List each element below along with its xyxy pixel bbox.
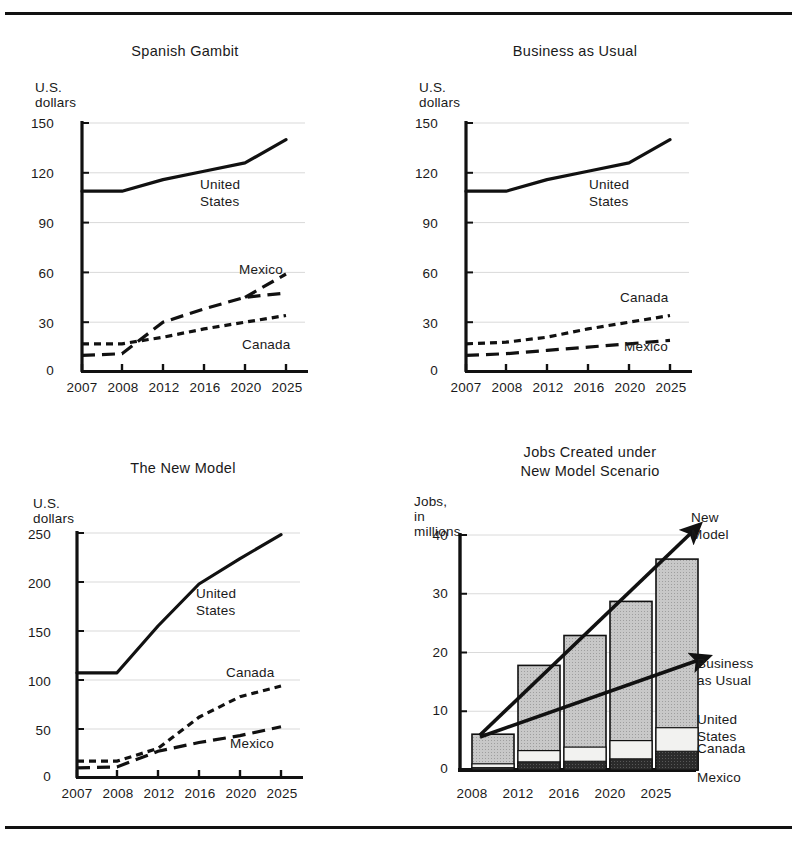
ytick-120-spanish-gambit: 120 xyxy=(8,166,54,181)
bar-group-2008 xyxy=(472,734,514,770)
bar-group-2025 xyxy=(656,559,698,770)
ytick-30-spanish-gambit: 30 xyxy=(8,316,54,331)
xtick-2016-jobs-created: 2016 xyxy=(539,786,589,801)
ytick-100-the-new-model: 100 xyxy=(3,674,51,689)
xtick-2025-business-as-usual: 2025 xyxy=(646,380,696,395)
bar-segment-mexico xyxy=(610,759,652,770)
xtick-2025-spanish-gambit: 2025 xyxy=(262,380,312,395)
series-label-canada-the-new-model: Canada xyxy=(226,664,275,681)
chart-title-the-new-model: The New Model xyxy=(58,459,308,478)
ytick-60-business-as-usual: 60 xyxy=(392,266,438,281)
chart-title-spanish-gambit: Spanish Gambit xyxy=(60,42,310,61)
bar-segment-mexico xyxy=(564,761,606,770)
y-axis-caption-business-as-usual: U.S. dollars xyxy=(419,80,460,110)
xtick-2025-the-new-model: 2025 xyxy=(257,786,307,801)
series-label-united-states-business-as-usual: United States xyxy=(589,176,629,210)
ytick-60-spanish-gambit: 60 xyxy=(8,266,54,281)
bar-group-2016 xyxy=(564,636,606,771)
ytick-10-jobs-created: 10 xyxy=(412,703,448,718)
legend-label-mexico: Mexico xyxy=(697,769,741,786)
legend-label-canada: Canada xyxy=(697,740,746,757)
bar-segment-mexico xyxy=(656,751,698,770)
ytick-150-spanish-gambit: 150 xyxy=(8,116,54,131)
gridlines xyxy=(82,123,305,322)
series-label-mexico-spanish-gambit: Mexico xyxy=(239,261,283,278)
series-label-united-states-spanish-gambit: United States xyxy=(200,176,240,210)
series-label-mexico-the-new-model: Mexico xyxy=(230,735,274,752)
figure-page: Spanish Gambit U.S. dollars 150 120 90 6… xyxy=(0,0,797,843)
top-divider-rule xyxy=(5,12,792,15)
bar-segment-mexico xyxy=(472,768,514,770)
ytick-20-jobs-created: 20 xyxy=(412,645,448,660)
xtick-2025-jobs-created: 2025 xyxy=(631,786,681,801)
chart-title-jobs-created: Jobs Created under New Model Scenario xyxy=(470,443,710,481)
series-label-canada-spanish-gambit: Canada xyxy=(242,336,291,353)
ytick-30-jobs-created: 30 xyxy=(412,586,448,601)
series-line-united-states xyxy=(466,140,670,192)
series-label-canada-business-as-usual: Canada xyxy=(620,289,669,306)
ytick-40-jobs-created: 40 xyxy=(412,528,448,543)
series-label-mexico-business-as-usual: Mexico xyxy=(624,338,668,355)
series-line-united-states xyxy=(82,140,286,192)
ytick-120-business-as-usual: 120 xyxy=(392,166,438,181)
y-axis-caption-spanish-gambit: U.S. dollars xyxy=(35,80,76,110)
ytick-0-business-as-usual: 0 xyxy=(392,363,438,378)
ytick-0-the-new-model: 0 xyxy=(3,769,51,784)
arrow-label-business-as-usual: Business as Usual xyxy=(697,655,753,689)
arrow-label-new-model: New Model xyxy=(691,509,729,543)
ytick-150-business-as-usual: 150 xyxy=(392,116,438,131)
xtick-2012-jobs-created: 2012 xyxy=(493,786,543,801)
ytick-90-spanish-gambit: 90 xyxy=(8,216,54,231)
ytick-0-jobs-created: 0 xyxy=(412,761,448,776)
ytick-0-spanish-gambit: 0 xyxy=(8,363,54,378)
ytick-50-the-new-model: 50 xyxy=(3,723,51,738)
ytick-150-the-new-model: 150 xyxy=(3,625,51,640)
gridlines xyxy=(77,533,300,729)
y-axis-caption-the-new-model: U.S. dollars xyxy=(33,496,74,526)
ytick-30-business-as-usual: 30 xyxy=(392,316,438,331)
chart-title-business-as-usual: Business as Usual xyxy=(450,42,700,61)
series-label-united-states-the-new-model: United States xyxy=(196,585,236,619)
xtick-2020-jobs-created: 2020 xyxy=(585,786,635,801)
bottom-divider-rule xyxy=(5,826,792,829)
ytick-250-the-new-model: 250 xyxy=(3,527,51,542)
ytick-90-business-as-usual: 90 xyxy=(392,216,438,231)
ytick-200-the-new-model: 200 xyxy=(3,576,51,591)
series-line-united-states xyxy=(77,535,281,673)
bar-segment-mexico xyxy=(518,762,560,770)
xtick-2008-jobs-created: 2008 xyxy=(447,786,497,801)
